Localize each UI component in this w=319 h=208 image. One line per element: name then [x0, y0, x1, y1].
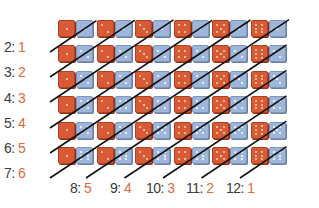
sum-line-11	[202, 121, 287, 178]
sum-line-12	[240, 147, 287, 178]
sum-line-3	[50, 20, 135, 77]
sum-line-4	[50, 20, 174, 102]
sum-line-8	[86, 45, 287, 178]
diagonal-sum-lines	[0, 0, 319, 208]
sum-line-2	[50, 21, 97, 52]
sum-line-7	[50, 20, 289, 178]
sum-line-6	[50, 20, 251, 153]
sum-line-10	[163, 96, 287, 178]
